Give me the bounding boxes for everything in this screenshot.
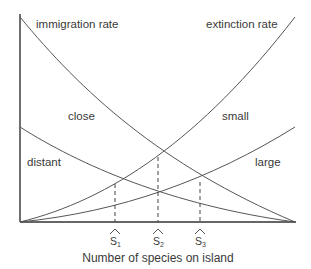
svg-text:S: S: [195, 235, 202, 247]
svg-text:1: 1: [117, 241, 121, 248]
hat-icon: [153, 229, 163, 234]
distant-label: distant: [27, 156, 62, 168]
s3-tick-label: S 3: [195, 229, 206, 248]
hat-icon: [195, 229, 205, 234]
x-axis-label: Number of species on island: [82, 251, 233, 265]
immigration-rate-label: immigration rate: [36, 18, 118, 30]
s1-tick-label: S 1: [110, 229, 121, 248]
svg-text:S: S: [153, 235, 160, 247]
extinction-rate-label: extinction rate: [206, 18, 278, 30]
island-biogeography-diagram: immigration rate extinction rate close s…: [0, 0, 311, 269]
s2-tick-label: S 2: [153, 229, 164, 248]
large-label: large: [255, 156, 281, 168]
svg-text:S: S: [110, 235, 117, 247]
svg-text:2: 2: [160, 241, 164, 248]
hat-icon: [110, 229, 120, 234]
close-label: close: [68, 110, 95, 122]
small-label: small: [222, 110, 249, 122]
svg-text:3: 3: [202, 241, 206, 248]
